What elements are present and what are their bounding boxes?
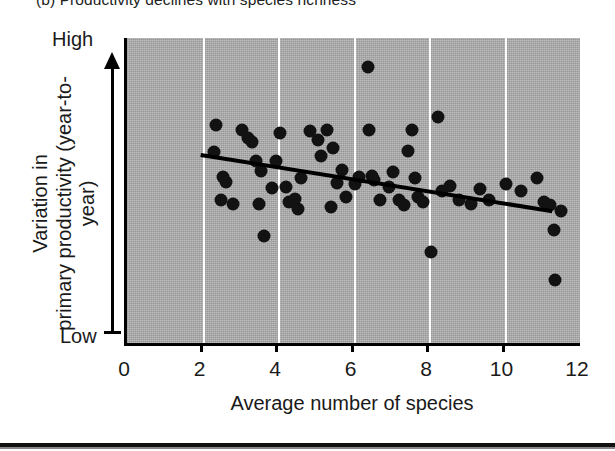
x-tick-4 [275, 343, 278, 352]
data-point [398, 199, 411, 212]
data-point [402, 145, 415, 158]
x-tick-2 [200, 343, 203, 352]
data-point [406, 123, 419, 136]
data-point [209, 118, 222, 131]
x-axis-title: Average number of species [124, 392, 580, 415]
data-point [424, 245, 437, 258]
x-tick-label-12: 12 [565, 357, 588, 381]
data-point [443, 179, 456, 192]
x-tick-label-8: 8 [420, 357, 432, 381]
data-point [361, 60, 374, 73]
x-tick-label-2: 2 [194, 357, 206, 381]
data-point [321, 123, 334, 136]
data-point [291, 203, 304, 216]
y-axis-title-line1: Variation in [29, 154, 51, 253]
data-point [547, 224, 560, 237]
data-point [324, 200, 337, 213]
x-tick-8 [426, 343, 429, 352]
data-point [515, 184, 528, 197]
data-point [339, 190, 352, 203]
data-point [214, 194, 227, 207]
data-point [311, 134, 324, 147]
y-axis-high-label: High [52, 28, 93, 51]
x-tick-6 [351, 343, 354, 352]
data-point [555, 205, 568, 218]
y-axis-arrow-shaft-icon [111, 66, 114, 331]
x-tick-label-10: 10 [490, 357, 513, 381]
data-point [408, 172, 421, 185]
figure-bottom-rule-shadow [0, 447, 615, 449]
figure-panel: (b) Productivity declines with species r… [0, 0, 615, 451]
figure-caption-strip: (b) Productivity declines with species r… [0, 0, 615, 13]
data-point [530, 172, 543, 185]
data-point [432, 110, 445, 123]
data-point [257, 229, 270, 242]
y-axis-title-line2: primary productivity (year-to-year) [52, 53, 99, 353]
x-tick-label-0: 0 [118, 357, 130, 381]
y-axis-title: Variation in primary productivity (year-… [29, 53, 100, 353]
data-point [273, 126, 286, 139]
data-point [219, 175, 232, 188]
data-point [363, 123, 376, 136]
data-point [315, 150, 328, 163]
data-point [226, 198, 239, 211]
data-point [253, 198, 266, 211]
data-point [417, 196, 430, 209]
plot-area [124, 38, 580, 346]
data-point [326, 141, 339, 154]
data-point [549, 274, 562, 287]
gridline-x-2 [203, 38, 205, 343]
x-tick-label-6: 6 [345, 357, 357, 381]
data-point [266, 182, 279, 195]
x-tick-label-4: 4 [269, 357, 281, 381]
data-point [387, 166, 400, 179]
data-point [245, 135, 258, 148]
x-tick-10 [502, 343, 505, 352]
data-point [279, 180, 292, 193]
data-point [500, 178, 513, 191]
figure-caption: (b) Productivity declines with species r… [36, 0, 356, 9]
y-axis-arrow-foot-icon [104, 331, 121, 334]
data-point [373, 193, 386, 206]
